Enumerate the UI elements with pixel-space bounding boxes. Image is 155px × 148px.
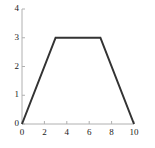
y-tick-label: 2 [0,62,19,71]
x-tick-label: 8 [102,128,122,137]
x-tick-label: 6 [79,128,99,137]
y-tick-label: 0 [0,119,19,128]
data-line-trapezoid [22,38,134,124]
chart-canvas [0,0,155,148]
x-tick-label: 2 [34,128,54,137]
x-tick-label: 10 [124,128,144,137]
y-tick-label: 3 [0,33,19,42]
x-tick-label: 4 [57,128,77,137]
y-tick-label: 1 [0,90,19,99]
chart-container: 01234 0246810 [0,0,155,148]
data-series-group [22,38,134,124]
x-tick-label: 0 [12,128,32,137]
y-tick-label: 4 [0,4,19,13]
